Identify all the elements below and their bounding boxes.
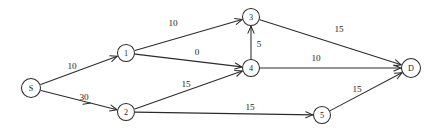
- node-label-S: S: [29, 84, 34, 93]
- node-label-2: 2: [124, 108, 128, 117]
- graph-diagram: 103010015155101515 S12345D: [0, 0, 440, 131]
- edge-weight-4-3: 5: [257, 39, 262, 49]
- edge-weight-5-D: 15: [352, 84, 362, 94]
- edge-weight-1-3: 10: [168, 18, 178, 28]
- edge-weight-2-4: 15: [181, 79, 191, 89]
- node-S[interactable]: S: [22, 79, 41, 98]
- edge-weight-S-1: 10: [67, 61, 77, 71]
- edge-5-to-D: [330, 73, 402, 111]
- edge-S-to-1: [41, 56, 118, 84]
- node-label-1: 1: [124, 49, 128, 58]
- edge-weight-3-D: 15: [334, 24, 344, 34]
- node-5[interactable]: 5: [314, 107, 331, 124]
- node-4[interactable]: 4: [243, 60, 260, 77]
- node-label-5: 5: [320, 111, 324, 120]
- node-2[interactable]: 2: [118, 104, 135, 121]
- node-D[interactable]: D: [402, 59, 421, 78]
- edge-weight-2-5: 15: [245, 102, 255, 112]
- edge-1-to-4: [135, 54, 242, 67]
- node-3[interactable]: 3: [243, 9, 260, 26]
- edges-layer: [41, 20, 402, 115]
- edge-weight-4-D: 10: [311, 53, 321, 63]
- node-1[interactable]: 1: [118, 45, 135, 62]
- graph-canvas: 103010015155101515 S12345D: [0, 0, 440, 131]
- node-label-4: 4: [249, 64, 253, 73]
- node-label-3: 3: [249, 13, 253, 22]
- edge-1-to-3: [135, 20, 242, 51]
- edge-weights-layer: 103010015155101515: [67, 18, 362, 112]
- edge-2-to-5: [135, 112, 312, 115]
- node-label-D: D: [408, 64, 414, 73]
- edge-2-to-4: [135, 71, 242, 109]
- edge-weight-S-2: 30: [79, 92, 89, 102]
- edge-weight-1-4: 0: [195, 47, 200, 57]
- edge-3-to-D: [260, 20, 401, 65]
- arrow-tick-S-to-2: [83, 103, 90, 104]
